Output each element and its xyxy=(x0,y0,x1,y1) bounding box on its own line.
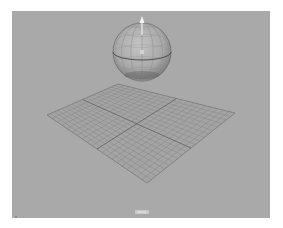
camera-label: persp xyxy=(135,210,149,214)
plane-mesh[interactable] xyxy=(47,84,235,183)
3d-viewport[interactable]: persp xyxy=(12,11,270,218)
scene-canvas[interactable] xyxy=(12,11,270,218)
axis-indicator-icon xyxy=(15,207,23,215)
